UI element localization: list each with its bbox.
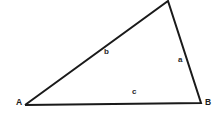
side-label-b: b <box>104 48 109 56</box>
triangle-shape <box>0 0 220 115</box>
side-label-a: a <box>178 56 182 64</box>
vertex-label-a: A <box>16 98 22 107</box>
vertex-label-b: B <box>205 98 211 107</box>
triangle-outline <box>25 1 201 105</box>
triangle-diagram: A B a b c <box>0 0 220 115</box>
side-label-c: c <box>132 88 136 96</box>
